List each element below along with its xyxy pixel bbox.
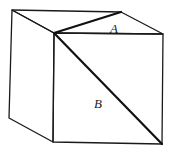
label-a: A [109,21,118,36]
cube-diagram: A B [0,0,170,151]
diagonal-b [54,33,162,144]
label-b: B [94,96,102,111]
left-face [9,10,54,142]
